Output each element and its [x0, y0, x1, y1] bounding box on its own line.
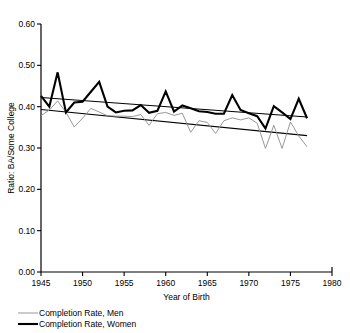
- x-axis-title: Year of Birth: [163, 292, 210, 302]
- x-tick-label: 1945: [32, 278, 51, 288]
- y-axis-title: Ratio: BA/Some College: [6, 102, 16, 194]
- x-tick-label: 1965: [198, 278, 217, 288]
- y-tick-label: 0.50: [18, 60, 35, 70]
- y-tick-label: 0.00: [18, 267, 35, 277]
- y-tick-label: 0.40: [18, 102, 35, 112]
- y-tick-label: 0.20: [18, 184, 35, 194]
- x-tick-label: 1960: [156, 278, 175, 288]
- trend-line: [41, 98, 307, 117]
- x-tick-label: 1975: [281, 278, 300, 288]
- y-tick-label: 0.10: [18, 226, 35, 236]
- x-tick-label: 1950: [73, 278, 92, 288]
- line-chart: 0.000.100.200.300.400.500.60194519501955…: [0, 0, 350, 333]
- legend-label-men: Completion Rate, Men: [39, 308, 124, 318]
- y-tick-label: 0.30: [18, 143, 35, 153]
- x-tick-label: 1980: [323, 278, 342, 288]
- x-tick-label: 1970: [239, 278, 258, 288]
- legend-label-women: Completion Rate, Women: [39, 319, 136, 329]
- y-tick-label: 0.60: [18, 19, 35, 29]
- x-tick-label: 1955: [115, 278, 134, 288]
- chart-figure: 0.000.100.200.300.400.500.60194519501955…: [0, 0, 350, 333]
